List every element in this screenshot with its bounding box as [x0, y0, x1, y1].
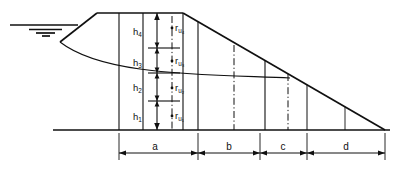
ru4-point — [171, 27, 174, 30]
label-h3: h3 — [133, 57, 142, 69]
upstream-slope-line — [60, 13, 97, 42]
dim-arrow-3r — [260, 151, 267, 156]
slope-stability-diagram: h4 h3 h2 h1 ru₄ ru₃ ru₂ ru₁ — [0, 0, 405, 172]
chain-centre-lines — [172, 16, 288, 130]
dim-label-c: c — [281, 141, 286, 152]
height-arrow-dn-73 — [155, 67, 160, 73]
height-arrow-up-48 — [155, 48, 160, 54]
dim-arrow-5l — [378, 151, 385, 156]
dim-arrow-2l — [191, 151, 198, 156]
height-labels: h4 h3 h2 h1 — [133, 26, 142, 123]
dim-label-d: d — [343, 141, 349, 152]
dim-arrow-1r — [119, 151, 126, 156]
dim-label-a: a — [152, 141, 158, 152]
height-dim-arrow-bottom — [154, 123, 160, 130]
height-arrow-up-101 — [155, 101, 160, 107]
height-arrow-up-73 — [155, 73, 160, 79]
dim-label-b: b — [226, 141, 232, 152]
dim-arrow-3l — [253, 151, 260, 156]
height-arrow-dn-101 — [155, 95, 160, 101]
horizontal-dimension-group: a b c d — [119, 133, 385, 160]
ru3-point — [171, 60, 174, 63]
height-dim-arrow-top — [154, 13, 160, 20]
dim-arrow-2r — [198, 151, 205, 156]
slice-boundary-lines — [119, 13, 345, 130]
ru2-point — [171, 87, 174, 90]
label-h1: h1 — [133, 111, 142, 123]
label-h2: h2 — [133, 82, 142, 94]
ru1-point — [171, 115, 174, 118]
dim-arrow-4r — [307, 151, 314, 156]
downstream-slope-line — [183, 13, 385, 130]
height-arrow-dn-48 — [155, 42, 160, 48]
label-h4: h4 — [133, 26, 142, 38]
water-table-symbol-group — [10, 25, 78, 36]
dim-arrow-4l — [300, 151, 307, 156]
embankment-outline — [53, 13, 390, 130]
